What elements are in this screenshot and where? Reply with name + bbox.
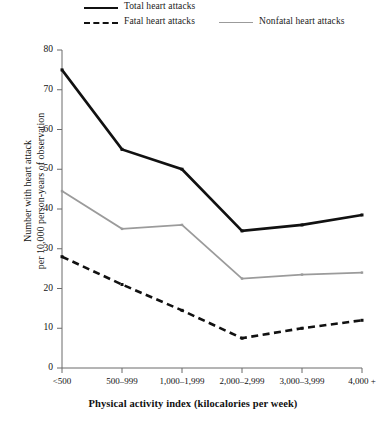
data-point-fatal-heart-attacks [121,283,124,286]
series-line-total-heart-attacks [62,70,362,231]
y-axis-tick-label: 10 [29,323,53,333]
y-axis-tick-label: 0 [29,363,53,373]
data-point-nonfatal-heart-attacks [61,190,63,192]
plot-area: 01020304050607080 <500500–9991,000–1,999… [0,0,386,423]
y-axis-title-line-2: per 10,000 person-years of observation [35,113,46,269]
data-point-total-heart-attacks [361,213,364,216]
data-point-fatal-heart-attacks [361,319,364,322]
data-point-fatal-heart-attacks [181,309,184,312]
data-point-nonfatal-heart-attacks [301,273,303,275]
data-point-fatal-heart-attacks [301,327,304,330]
data-series-layer [61,68,364,339]
data-point-total-heart-attacks [301,223,304,226]
data-point-total-heart-attacks [121,148,124,151]
data-point-nonfatal-heart-attacks [241,277,243,279]
x-axis-ticks [62,368,362,373]
data-point-nonfatal-heart-attacks [121,228,123,230]
series-line-fatal-heart-attacks [62,257,362,338]
series-line-nonfatal-heart-attacks [62,191,362,278]
y-axis-title-line-1: Number with heart attack [22,140,33,242]
x-axis-tick-label: 4,000 + [322,377,386,386]
data-point-fatal-heart-attacks [61,255,64,258]
data-point-nonfatal-heart-attacks [181,224,183,226]
data-point-total-heart-attacks [181,168,184,171]
chart-axes [62,50,362,368]
y-axis-ticks [57,50,62,368]
data-point-fatal-heart-attacks [241,337,244,340]
x-axis-title: Physical activity index (kilocalories pe… [0,398,386,409]
data-point-total-heart-attacks [241,229,244,232]
y-axis-title: Number with heart attack per 10,000 pers… [21,61,47,321]
y-axis-tick-label: 80 [29,45,53,55]
data-point-total-heart-attacks [61,68,64,71]
chart-svg [0,0,386,423]
chart-container: Total heart attacks Fatal heart attacks … [0,0,386,423]
data-point-nonfatal-heart-attacks [361,271,363,273]
